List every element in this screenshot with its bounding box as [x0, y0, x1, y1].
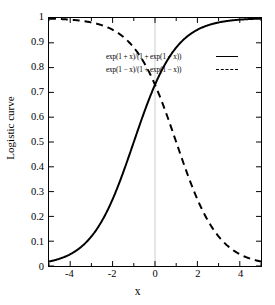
- y-tick-label: 0.7: [31, 87, 44, 98]
- legend-entry-dashed[interactable]: exp(1 − x)/(1 + exp(1 − x)): [106, 63, 214, 76]
- x-axis-tick-labels: -4-2024: [0, 269, 275, 285]
- y-tick-label: 0.1: [31, 237, 44, 248]
- y-tick-label: 0.8: [31, 62, 44, 73]
- legend-entry-solid[interactable]: exp(1 + x)/(1 + exp(1 + x)): [106, 50, 214, 63]
- y-tick-label: 0.4: [31, 162, 44, 173]
- y-tick-label: 0.9: [31, 37, 44, 48]
- y-tick-label: 0.6: [31, 112, 44, 123]
- x-tick-label: 0: [152, 269, 157, 280]
- y-axis-title: Logistic curve: [4, 68, 16, 188]
- legend: exp(1 + x)/(1 + exp(1 + x)) exp(1 − x)/(…: [106, 50, 214, 76]
- x-tick-label: -2: [108, 269, 117, 280]
- legend-line-sample-dashed: [216, 69, 238, 71]
- x-tick-label: 2: [195, 269, 200, 280]
- chart-figure: 00.10.20.30.40.50.60.70.80.91 Logistic c…: [0, 0, 275, 305]
- legend-label-solid: exp(1 + x)/(1 + exp(1 + x)): [106, 53, 181, 61]
- y-tick-label: 1: [39, 12, 44, 23]
- legend-line-sample-solid: [216, 56, 238, 58]
- x-tick-label: -4: [65, 269, 74, 280]
- y-tick-label: 0.3: [31, 187, 44, 198]
- legend-label-dashed: exp(1 − x)/(1 + exp(1 − x)): [106, 66, 181, 74]
- y-tick-label: 0.2: [31, 212, 44, 223]
- y-tick-label: 0.5: [31, 137, 44, 148]
- x-tick-label: 4: [238, 269, 243, 280]
- x-axis-title: x: [0, 285, 275, 297]
